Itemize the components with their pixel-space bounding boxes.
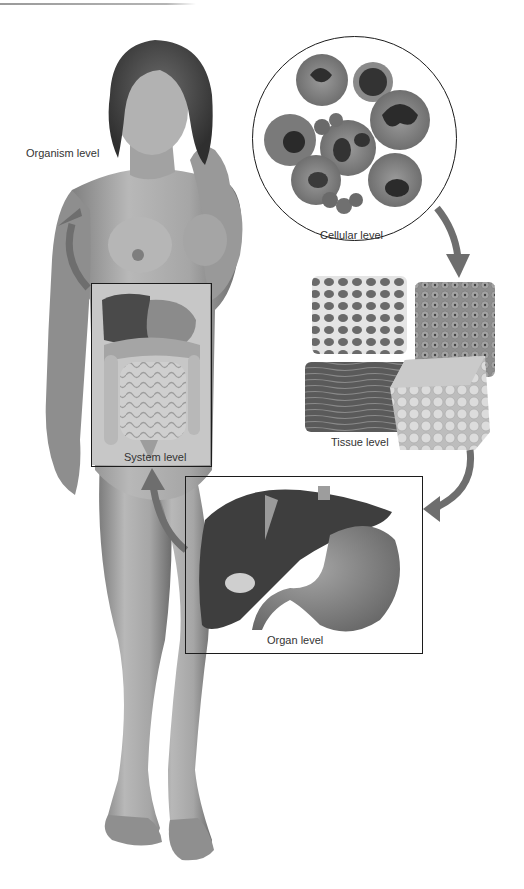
organism-level-label: Organism level	[26, 147, 99, 159]
cellular-level-frame	[252, 36, 457, 241]
organ-level-frame	[185, 476, 423, 654]
tissue-level-label: Tissue level	[331, 436, 389, 448]
tissues-illustration	[305, 276, 495, 450]
arrow-tissue-to-organ	[435, 450, 471, 508]
bone-tissue	[312, 276, 407, 354]
cellular-level-label: Cellular level	[320, 229, 383, 241]
system-level-frame	[91, 283, 212, 467]
system-level-label: System level	[124, 451, 186, 463]
organ-level-label: Organ level	[267, 634, 323, 646]
arrow-cellular-to-tissue	[437, 208, 458, 258]
